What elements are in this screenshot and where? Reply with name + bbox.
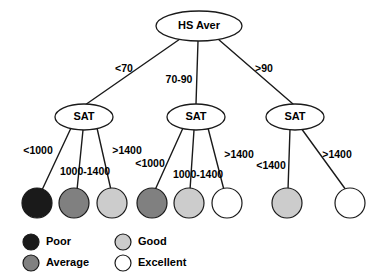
node-sat-right[interactable]: SAT <box>266 104 324 130</box>
legend-label-excellent: Excellent <box>138 256 187 268</box>
edge-label-lt1400-right: <1400 <box>256 159 286 171</box>
edge-label-lt70: <70 <box>115 62 133 74</box>
leaf-node-poor-1[interactable] <box>22 188 52 218</box>
edge-label-gt1400-right: >1400 <box>322 148 352 160</box>
level2-edges-middle <box>155 128 224 190</box>
level2-edges-left <box>42 128 111 190</box>
level2-edge-labels-middle: <1000 1000-1400 >1400 <box>135 148 254 180</box>
edge-label-70-90: 70-90 <box>166 73 193 85</box>
legend-swatch-good <box>115 234 131 250</box>
edge-satleft-to-leaf-3 <box>97 128 111 190</box>
legend-label-poor: Poor <box>46 235 72 247</box>
edge-label-lt1000-middle: <1000 <box>135 157 165 169</box>
legend: Poor Average Good Excellent <box>23 234 187 271</box>
legend-swatch-average <box>23 255 39 271</box>
edge-label-1000-1400-left: 1000-1400 <box>60 165 110 177</box>
edge-label-1000-1400-middle: 1000-1400 <box>173 168 223 180</box>
edge-satmid-to-leaf-5 <box>190 130 194 190</box>
edge-satleft-to-leaf-2 <box>77 130 83 190</box>
node-sat-left[interactable]: SAT <box>55 104 113 130</box>
root-label: HS Aver <box>178 19 221 31</box>
edge-label-gt1400-middle: >1400 <box>224 148 254 160</box>
tree-canvas: HS Aver SAT SAT SAT <70 70-90 >90 <1000 … <box>0 0 384 280</box>
legend-swatch-poor <box>23 234 39 250</box>
level2-edge-labels-right: <1400 >1400 <box>256 148 352 171</box>
edge-satleft-to-leaf-1 <box>42 128 71 190</box>
level2-edge-labels-left: <1000 1000-1400 >1400 <box>23 144 142 177</box>
leaf-node-good-1[interactable] <box>97 188 127 218</box>
edge-satright-to-leaf-7 <box>288 129 290 190</box>
sat-right-label: SAT <box>284 110 305 122</box>
leaf-nodes <box>22 188 365 218</box>
edge-satmid-to-leaf-6 <box>208 128 224 190</box>
leaf-node-excellent-2[interactable] <box>335 188 365 218</box>
legend-label-good: Good <box>138 235 167 247</box>
edge-label-gt90: >90 <box>255 62 273 74</box>
node-root[interactable]: HS Aver <box>156 11 242 41</box>
edge-root-to-sat-middle <box>196 41 198 104</box>
node-sat-middle[interactable]: SAT <box>167 104 225 130</box>
leaf-node-average-2[interactable] <box>137 188 167 218</box>
leaf-node-good-2[interactable] <box>174 188 204 218</box>
leaf-node-excellent-1[interactable] <box>212 188 242 218</box>
sat-middle-label: SAT <box>185 110 206 122</box>
legend-swatch-excellent <box>115 255 131 271</box>
leaf-node-average-1[interactable] <box>59 188 89 218</box>
legend-label-average: Average <box>46 256 89 268</box>
level1-edge-labels: <70 70-90 >90 <box>115 62 273 85</box>
decision-tree-diagram: HS Aver SAT SAT SAT <70 70-90 >90 <1000 … <box>0 0 384 280</box>
sat-left-label: SAT <box>73 110 94 122</box>
leaf-node-good-3[interactable] <box>272 188 302 218</box>
edge-label-lt1000-left: <1000 <box>23 144 53 156</box>
edge-label-gt1400-left: >1400 <box>112 144 142 156</box>
